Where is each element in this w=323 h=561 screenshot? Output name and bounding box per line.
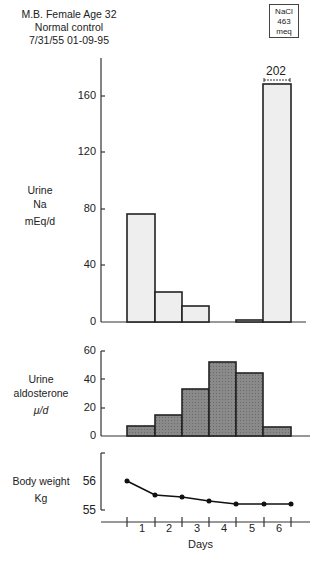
chart-graphics xyxy=(0,0,323,561)
break-marker xyxy=(264,78,290,82)
sodium-bars xyxy=(127,84,291,322)
aldosterone-bars xyxy=(127,362,291,436)
weight-panel xyxy=(101,453,310,527)
